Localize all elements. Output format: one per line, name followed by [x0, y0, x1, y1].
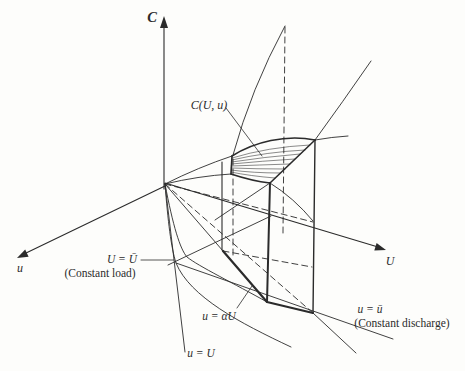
u-axis: [24, 186, 165, 254]
axis-arrowhead-icons: [17, 16, 386, 258]
figure-strokes: [17, 16, 393, 353]
u-equals-capital-u-equation: u = U: [187, 347, 215, 359]
constant-discharge-caption: (Constant discharge): [354, 317, 449, 330]
surface-function-label: C(U, u): [191, 98, 228, 112]
c-axis-label: C: [147, 9, 157, 25]
constant-load-equation: U = Ū: [107, 253, 138, 265]
energy-surface-figure: C C(U, u) u U U = Ū (Constant load) u = …: [0, 0, 465, 371]
u-axis-label: u: [17, 261, 23, 275]
alpha-u-equation: u = αU: [202, 310, 236, 322]
constant-load-caption: (Constant load): [64, 267, 135, 280]
figure-drawing: C C(U, u) u U U = Ū (Constant load) u = …: [0, 0, 465, 371]
constant-discharge-equation: u = ū: [357, 303, 382, 315]
leader-lines: [141, 108, 262, 308]
capital-u-axis-label: U: [386, 254, 396, 268]
